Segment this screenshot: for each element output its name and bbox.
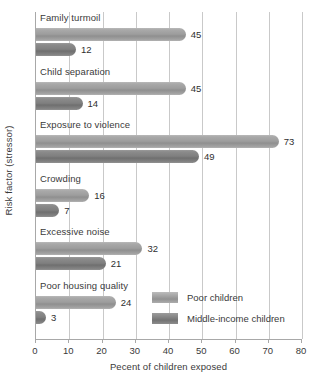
x-tick-label: 40 [163, 345, 174, 356]
x-tick-label: 10 [63, 345, 74, 356]
bar-value-label: 45 [191, 29, 202, 40]
x-tick [102, 339, 103, 343]
bar[interactable] [36, 97, 83, 110]
chart-legend: Poor childrenMiddle-income children [152, 290, 302, 332]
category-label: Poor housing quality [40, 280, 128, 291]
x-tick-label: 50 [196, 345, 207, 356]
x-tick-label: 70 [262, 345, 273, 356]
bar[interactable] [36, 189, 89, 202]
x-tick [201, 339, 202, 343]
x-tick [35, 339, 36, 343]
bar-group: Excessive noise3221 [36, 226, 302, 279]
bar-chart: Risk factor (stressor) Family turmoil451… [0, 0, 317, 379]
bar-value-label: 73 [284, 136, 295, 147]
gridline [302, 12, 303, 339]
legend-item[interactable]: Poor children [152, 290, 302, 305]
bar[interactable] [36, 311, 46, 324]
category-label: Crowding [40, 173, 81, 184]
bar-value-label: 7 [64, 205, 69, 216]
bar[interactable] [36, 150, 199, 163]
x-tick-label: 60 [229, 345, 240, 356]
legend-swatch [152, 313, 178, 324]
bar-value-label: 16 [94, 190, 105, 201]
bar-value-label: 49 [204, 151, 215, 162]
bar[interactable] [36, 257, 106, 270]
bar-value-label: 21 [111, 258, 122, 269]
x-axis-ticks: 01020304050607080 [35, 339, 302, 359]
bar-value-label: 3 [51, 312, 56, 323]
legend-swatch [152, 292, 178, 303]
bar-group: Exposure to violence7349 [36, 119, 302, 172]
bar[interactable] [36, 242, 142, 255]
x-tick [68, 339, 69, 343]
bar[interactable] [36, 28, 186, 41]
category-label: Child separation [40, 66, 110, 77]
bar-group: Family turmoil4512 [36, 12, 302, 65]
x-tick-label: 30 [129, 345, 140, 356]
x-tick-label: 20 [96, 345, 107, 356]
x-tick [168, 339, 169, 343]
legend-label: Middle-income children [187, 313, 285, 324]
legend-item[interactable]: Middle-income children [152, 311, 302, 326]
bar-value-label: 14 [88, 98, 99, 109]
bar[interactable] [36, 43, 76, 56]
bar-value-label: 32 [147, 243, 158, 254]
x-tick-label: 0 [32, 345, 37, 356]
bar-value-label: 12 [81, 44, 92, 55]
bar[interactable] [36, 82, 186, 95]
bar[interactable] [36, 204, 59, 217]
category-label: Family turmoil [40, 12, 101, 23]
x-tick [301, 339, 302, 343]
x-tick [235, 339, 236, 343]
y-axis-title-text: Risk factor (stressor) [4, 125, 15, 215]
x-axis-title: Pecent of children exposed [35, 361, 302, 372]
category-label: Excessive noise [40, 226, 110, 237]
x-tick [268, 339, 269, 343]
x-tick-label: 80 [296, 345, 307, 356]
bar-value-label: 24 [121, 297, 132, 308]
x-tick [135, 339, 136, 343]
bar[interactable] [36, 135, 279, 148]
bar[interactable] [36, 296, 116, 309]
bar-group: Child separation4514 [36, 66, 302, 119]
legend-label: Poor children [187, 292, 243, 303]
category-label: Exposure to violence [40, 119, 130, 130]
bar-value-label: 45 [191, 83, 202, 94]
y-axis-title: Risk factor (stressor) [0, 0, 18, 340]
bar-group: Crowding167 [36, 173, 302, 226]
